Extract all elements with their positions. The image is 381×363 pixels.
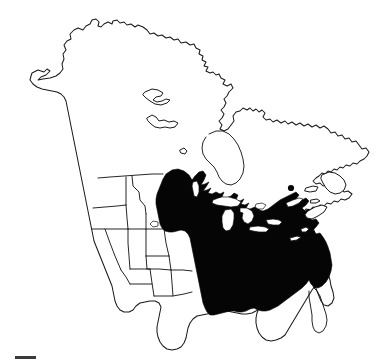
- north-america-map-svg: [0, 0, 381, 363]
- scale-bar: [15, 356, 36, 359]
- disjunct-population-dot: [288, 185, 294, 191]
- range-outlier-dot-small: [217, 194, 221, 198]
- distribution-map-figure: North America species distribution map: [0, 0, 381, 363]
